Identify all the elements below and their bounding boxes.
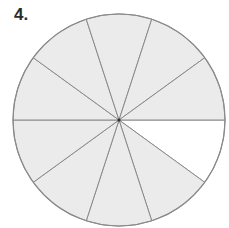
fraction-circle-diagram xyxy=(0,0,229,228)
center-point xyxy=(117,118,120,121)
